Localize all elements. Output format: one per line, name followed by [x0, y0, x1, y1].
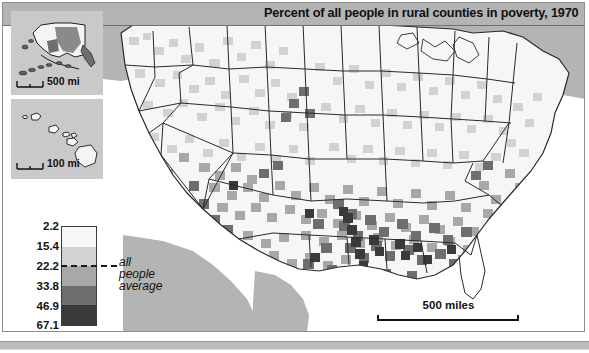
average-reference-line — [61, 265, 117, 267]
legend-swatch-2 — [62, 247, 96, 267]
main-scale-label: 500 miles — [371, 299, 526, 311]
legend-swatch-5 — [62, 305, 96, 325]
figure-frame: Percent of all people in rural counties … — [2, 2, 585, 332]
legend-tick-2: 15.4 — [17, 240, 59, 252]
main-scale-rule — [377, 315, 519, 321]
bottom-separator-bar — [0, 341, 589, 350]
legend-tick-3: 22.2 — [17, 260, 59, 272]
legend-tick-6: 67.1 — [17, 319, 59, 331]
hawaii-scale-label: 100 mi — [47, 157, 80, 169]
alaska-inset[interactable]: 500 mi — [11, 11, 103, 95]
legend-swatch-column — [61, 226, 97, 326]
legend-swatch-4 — [62, 286, 96, 306]
legend-tick-5: 46.9 — [17, 300, 59, 312]
average-reference-label: all people average — [119, 256, 167, 292]
main-map-scalebar: 500 miles — [371, 299, 526, 325]
legend-tick-1: 2.2 — [17, 220, 59, 232]
average-label-line1: all people — [119, 256, 167, 280]
average-label-line2: average — [119, 280, 167, 292]
hawaii-inset[interactable]: 100 mi — [11, 99, 103, 179]
poverty-map-figure: Percent of all people in rural counties … — [0, 0, 589, 353]
legend-tick-4: 33.8 — [17, 280, 59, 292]
legend-swatch-3 — [62, 266, 96, 286]
page-title: Percent of all people in rural counties … — [264, 5, 578, 20]
poverty-rate-legend[interactable]: 2.2 15.4 22.2 33.8 46.9 67.1 all people … — [17, 218, 167, 330]
alaska-scale-label: 500 mi — [47, 75, 80, 87]
legend-swatch-1 — [62, 227, 96, 247]
